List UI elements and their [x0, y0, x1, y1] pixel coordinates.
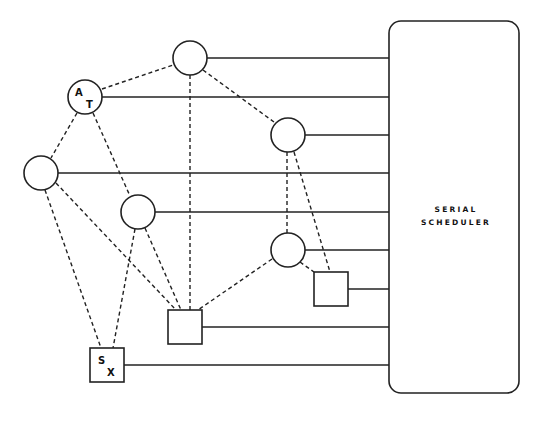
node-label-x: X [107, 367, 115, 378]
scheduler-connectors [58, 58, 389, 365]
serial-scheduler: SERIAL SCHEDULER [389, 21, 519, 393]
node-label-t: T [86, 99, 93, 110]
square-node-mid [168, 310, 202, 344]
network-diagram: SERIAL SCHEDULER A T S X [0, 0, 539, 423]
circle-node-at [68, 80, 102, 114]
circle-node-right-upper [271, 118, 305, 152]
scheduler-label-line1: SERIAL [435, 205, 478, 214]
circle-node-top [173, 41, 207, 75]
circle-node-right-lower [271, 233, 305, 267]
node-label-s: S [98, 355, 105, 366]
circle-node-left [24, 156, 58, 190]
circle-node-mid [121, 195, 155, 229]
node-label-a: A [75, 87, 83, 98]
scheduler-label-line2: SCHEDULER [421, 218, 491, 227]
square-node-right [314, 272, 348, 306]
